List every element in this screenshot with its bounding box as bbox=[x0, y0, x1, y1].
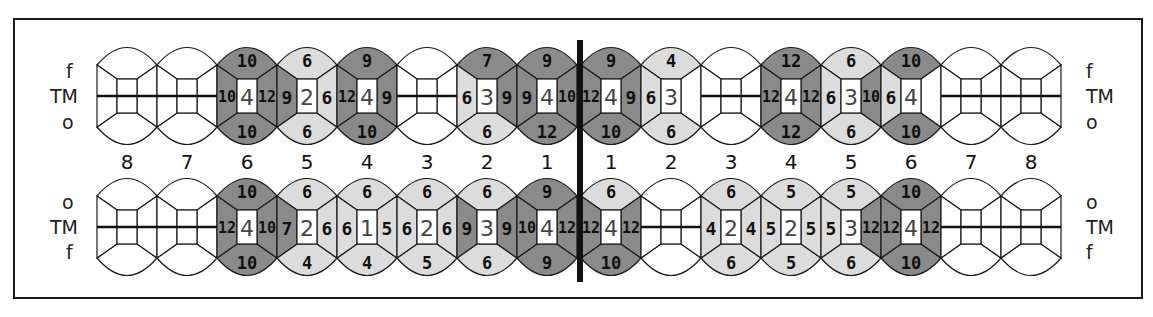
value-bottom: 12 bbox=[537, 122, 557, 142]
tooth-lower-right-4[interactable]: 55552 bbox=[761, 179, 821, 276]
value-bottom: 5 bbox=[786, 253, 796, 273]
tooth-lower-right-1[interactable]: 61012124 bbox=[581, 179, 641, 276]
tooth-lower-left-1[interactable]: 9910124 bbox=[517, 179, 577, 276]
value-bottom: 6 bbox=[726, 253, 736, 273]
value-right: 5 bbox=[806, 218, 817, 239]
value-top: 10 bbox=[237, 182, 257, 202]
value-top: 6 bbox=[302, 182, 312, 202]
tooth-lower-right-5[interactable]: 565123 bbox=[821, 179, 881, 276]
value-right: 6 bbox=[322, 87, 333, 108]
tooth-upper-right-4[interactable]: 121212124 bbox=[761, 48, 821, 145]
value-right: 4 bbox=[746, 218, 757, 239]
value-left: 12 bbox=[582, 88, 600, 106]
value-center: 3 bbox=[480, 85, 494, 110]
tooth-lower-left-3[interactable]: 65662 bbox=[397, 179, 457, 276]
value-top: 9 bbox=[362, 51, 372, 71]
tooth-upper-left-6[interactable]: 101010124 bbox=[217, 48, 277, 145]
value-center: 4 bbox=[904, 216, 918, 241]
value-right: 12 bbox=[922, 219, 940, 237]
value-right: 10 bbox=[258, 219, 276, 237]
value-top: 6 bbox=[606, 182, 616, 202]
value-bottom: 10 bbox=[601, 122, 621, 142]
value-top: 9 bbox=[542, 51, 552, 71]
value-top: 6 bbox=[302, 51, 312, 71]
value-left: 4 bbox=[706, 218, 717, 239]
value-right: 12 bbox=[862, 219, 880, 237]
value-left: 12 bbox=[582, 219, 600, 237]
value-top: 10 bbox=[237, 51, 257, 71]
value-center: 4 bbox=[240, 216, 254, 241]
value-center: 2 bbox=[784, 216, 798, 241]
value-left: 10 bbox=[218, 88, 236, 106]
value-left: 6 bbox=[646, 87, 657, 108]
tooth-lower-left-6[interactable]: 101012104 bbox=[217, 179, 277, 276]
value-center: 4 bbox=[904, 85, 918, 110]
value-center: 4 bbox=[604, 216, 618, 241]
value-center: 4 bbox=[240, 85, 254, 110]
value-bottom: 6 bbox=[846, 253, 856, 273]
tooth-upper-right-1[interactable]: 9101294 bbox=[581, 48, 641, 145]
tooth-upper-left-1[interactable]: 9129104 bbox=[517, 48, 577, 145]
value-bottom: 6 bbox=[482, 253, 492, 273]
value-top: 6 bbox=[422, 182, 432, 202]
value-right: 6 bbox=[322, 218, 333, 239]
value-bottom: 6 bbox=[302, 122, 312, 142]
value-right: 5 bbox=[382, 218, 393, 239]
tooth-upper-left-5[interactable]: 66962 bbox=[277, 48, 337, 145]
value-left: 5 bbox=[826, 218, 837, 239]
value-center: 4 bbox=[360, 85, 374, 110]
value-right: 12 bbox=[258, 88, 276, 106]
value-right: 9 bbox=[626, 87, 637, 108]
tooth-upper-left-2[interactable]: 76693 bbox=[457, 48, 517, 145]
value-right: 6 bbox=[442, 218, 453, 239]
value-left: 12 bbox=[218, 219, 236, 237]
periodontal-chart: 1010101246696291012947669391291049101294… bbox=[0, 0, 1153, 317]
value-top: 9 bbox=[542, 182, 552, 202]
value-bottom: 6 bbox=[846, 122, 856, 142]
value-top: 5 bbox=[846, 182, 856, 202]
value-bottom: 10 bbox=[901, 253, 921, 273]
value-top: 10 bbox=[901, 182, 921, 202]
value-bottom: 6 bbox=[666, 122, 676, 142]
value-top: 9 bbox=[606, 51, 616, 71]
value-top: 12 bbox=[781, 51, 801, 71]
value-left: 7 bbox=[282, 218, 293, 239]
tooth-upper-right-5[interactable]: 666103 bbox=[821, 48, 881, 145]
value-center: 1 bbox=[360, 216, 374, 241]
tooth-lower-right-6[interactable]: 101012124 bbox=[881, 179, 941, 276]
tooth-upper-right-2[interactable]: 4663 bbox=[641, 48, 701, 145]
value-left: 5 bbox=[766, 218, 777, 239]
value-left: 12 bbox=[882, 219, 900, 237]
value-right: 12 bbox=[558, 219, 576, 237]
tooth-upper-left-4[interactable]: 9101294 bbox=[337, 48, 397, 145]
value-center: 4 bbox=[540, 85, 554, 110]
value-top: 6 bbox=[846, 51, 856, 71]
tooth-upper-right-6[interactable]: 101064 bbox=[881, 48, 941, 145]
tooth-lower-right-3[interactable]: 66442 bbox=[701, 179, 761, 276]
value-bottom: 9 bbox=[542, 253, 552, 273]
value-right: 12 bbox=[622, 219, 640, 237]
value-right: 12 bbox=[802, 88, 820, 106]
value-bottom: 12 bbox=[781, 122, 801, 142]
value-center: 3 bbox=[480, 216, 494, 241]
value-left: 6 bbox=[886, 87, 897, 108]
value-bottom: 4 bbox=[302, 253, 312, 273]
value-right: 9 bbox=[502, 218, 513, 239]
value-left: 6 bbox=[826, 87, 837, 108]
value-center: 2 bbox=[300, 216, 314, 241]
tooth-lower-left-5[interactable]: 64762 bbox=[277, 179, 337, 276]
value-left: 9 bbox=[282, 87, 293, 108]
value-center: 3 bbox=[844, 216, 858, 241]
value-center: 3 bbox=[844, 85, 858, 110]
value-top: 10 bbox=[901, 51, 921, 71]
value-right: 10 bbox=[558, 88, 576, 106]
value-bottom: 10 bbox=[237, 253, 257, 273]
value-bottom: 4 bbox=[362, 253, 372, 273]
value-left: 6 bbox=[342, 218, 353, 239]
value-left: 12 bbox=[338, 88, 356, 106]
tooth-lower-left-2[interactable]: 66993 bbox=[457, 179, 517, 276]
value-left: 6 bbox=[402, 218, 413, 239]
tooth-lower-left-4[interactable]: 64651 bbox=[337, 179, 397, 276]
value-top: 6 bbox=[726, 182, 736, 202]
value-center: 4 bbox=[540, 216, 554, 241]
